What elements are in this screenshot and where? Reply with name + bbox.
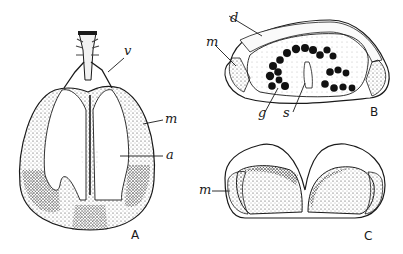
label-b-d: d bbox=[230, 11, 238, 24]
panel-b-drawing bbox=[215, 16, 389, 112]
panel-a-drawing bbox=[20, 31, 163, 230]
label-c-m: m bbox=[199, 183, 211, 196]
label-b-g: g bbox=[258, 106, 266, 119]
panel-label-c: C bbox=[364, 230, 372, 242]
label-b-s: s bbox=[283, 106, 290, 119]
panel-c-drawing bbox=[212, 144, 385, 218]
panel-label-b: B bbox=[370, 106, 378, 118]
label-a-m: m bbox=[165, 112, 177, 125]
label-a-v: v bbox=[124, 44, 131, 57]
label-a-a: a bbox=[166, 148, 174, 161]
anatomical-illustration bbox=[0, 0, 403, 254]
panel-label-a: A bbox=[131, 229, 139, 241]
label-b-m: m bbox=[206, 35, 218, 48]
